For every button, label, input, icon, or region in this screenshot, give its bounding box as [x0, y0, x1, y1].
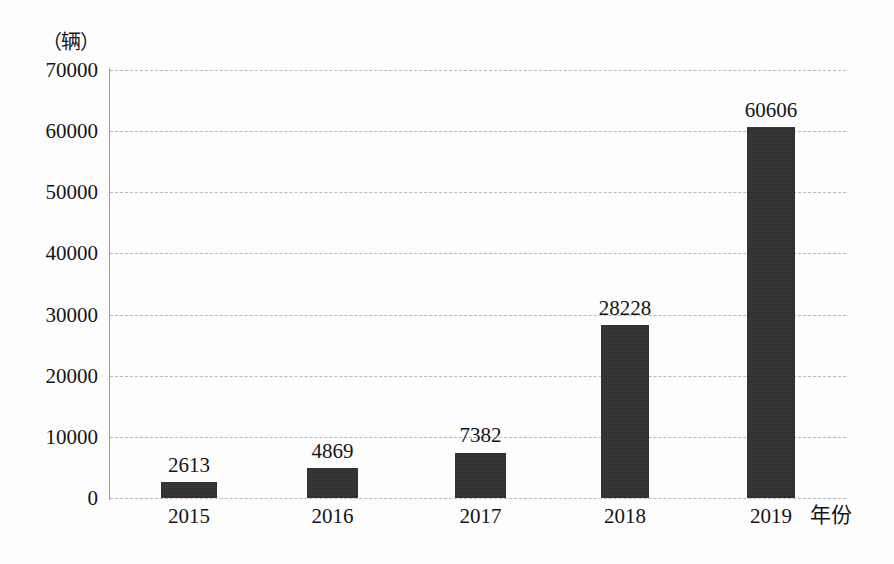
gridline-30000 — [110, 315, 846, 316]
y-tick-label-30000: 30000 — [0, 304, 98, 325]
y-tick-label-40000: 40000 — [0, 243, 98, 264]
x-tick-label-2018: 2018 — [604, 506, 646, 527]
x-tick-label-2017: 2017 — [460, 506, 502, 527]
gridline-70000 — [110, 70, 846, 71]
bar-2019[interactable] — [747, 127, 795, 498]
gridline-40000 — [110, 253, 846, 254]
y-axis-unit-label: （辆） — [42, 26, 99, 55]
y-tick-label-20000: 20000 — [0, 365, 98, 386]
x-tick-label-2019: 2019 — [750, 506, 792, 527]
y-tick-label-70000: 70000 — [0, 60, 98, 81]
bar-value-2017: 7382 — [460, 425, 502, 446]
y-tick-label-10000: 10000 — [0, 426, 98, 447]
y-tick-label-60000: 60000 — [0, 121, 98, 142]
plot-area: 2613 4869 7382 28228 60606 — [110, 70, 846, 498]
bar-2017[interactable] — [455, 453, 506, 498]
y-tick-label-0: 0 — [0, 488, 98, 509]
gridline-60000 — [110, 131, 846, 132]
x-tick-label-2016: 2016 — [312, 506, 354, 527]
bar-2016[interactable] — [307, 468, 358, 498]
x-tick-label-2015: 2015 — [168, 506, 210, 527]
bar-2018[interactable] — [601, 325, 649, 498]
bar-chart-figure: （辆） 70000 60000 50000 40000 30000 20000 … — [0, 0, 894, 564]
gridline-50000 — [110, 192, 846, 193]
bar-2015[interactable] — [161, 482, 217, 498]
bar-value-2015: 2613 — [168, 455, 210, 476]
bar-value-2016: 4869 — [312, 441, 354, 462]
gridline-baseline-0 — [110, 498, 846, 499]
bar-value-2019: 60606 — [745, 100, 798, 121]
bar-value-2018: 28228 — [599, 298, 652, 319]
x-axis-title: 年份 — [810, 505, 852, 526]
gridline-20000 — [110, 376, 846, 377]
y-tick-label-50000: 50000 — [0, 182, 98, 203]
